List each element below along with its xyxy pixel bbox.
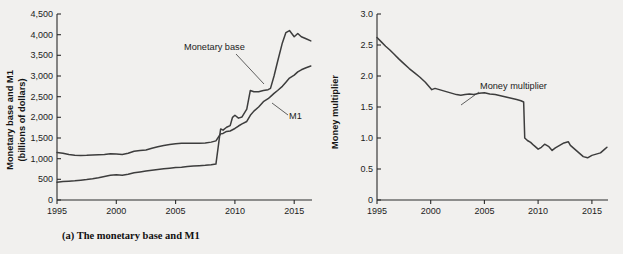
panel-a-caption: (a) The monetary base and M1: [62, 230, 200, 241]
panel-a-y-axis-label-line1: Monetary base and M1: [5, 70, 15, 170]
xb-tick-2005: 2005: [474, 206, 494, 216]
panel-a-y-axis-label-line2: (billions of dollars): [17, 78, 27, 161]
y-tick-2500: 2,500: [30, 92, 53, 102]
y-tick-3500: 3,500: [30, 50, 53, 60]
panel-b-y-tick-labels: 0 0.5 1.0 1.5 2.0 2.5 3.0: [360, 9, 373, 205]
y-tick-4500: 4,500: [30, 9, 53, 19]
y-tick-2000: 2,000: [30, 112, 53, 122]
xb-tick-2015: 2015: [582, 206, 602, 216]
x-tick-2000: 2000: [106, 206, 126, 216]
xb-tick-2010: 2010: [528, 206, 548, 216]
y-tick-3000: 3,000: [30, 71, 53, 81]
y-tick-1000: 1,000: [30, 154, 53, 164]
yb-tick-30: 3.0: [360, 9, 373, 19]
series-line-monetary-base: [57, 31, 311, 183]
y-tick-0: 0: [48, 195, 53, 205]
x-tick-2015: 2015: [284, 206, 304, 216]
leader-line-monetary-base: [236, 54, 264, 84]
panel-money-multiplier: Money multiplier 0 0.5 1.0 1.5 2.0 2.5: [320, 0, 623, 254]
xb-tick-1995: 1995: [367, 206, 387, 216]
annotation-monetary-base: Monetary base: [184, 42, 245, 52]
yb-tick-25: 2.5: [360, 40, 373, 50]
yb-tick-15: 1.5: [360, 102, 373, 112]
yb-tick-20: 2.0: [360, 71, 373, 81]
yb-tick-05: 0.5: [360, 164, 373, 174]
annotation-money-multiplier: Money multiplier: [480, 81, 547, 91]
panel-a-y-ticks: [57, 14, 61, 200]
x-tick-2005: 2005: [166, 206, 186, 216]
chart-a-svg: Monetary base and M1 (billions of dollar…: [0, 0, 320, 222]
panel-b-x-ticks: [377, 200, 592, 204]
panel-b-x-tick-labels: 1995 2000 2005 2010 2015: [367, 206, 602, 216]
x-tick-1995: 1995: [47, 206, 67, 216]
panel-a-x-ticks: [57, 200, 294, 204]
panel-a-y-tick-labels: 0 500 1,000 1,500 2,000 2,500 3,000 3,50…: [30, 9, 53, 205]
y-tick-1500: 1,500: [30, 133, 53, 143]
panel-b-y-axis-label: Money multiplier: [330, 75, 340, 149]
panel-monetary-base-m1: Monetary base and M1 (billions of dollar…: [0, 0, 320, 254]
yb-tick-10: 1.0: [360, 133, 373, 143]
panel-a-x-tick-labels: 1995 2000 2005 2010 2015: [47, 206, 304, 216]
chart-b-svg: Money multiplier 0 0.5 1.0 1.5 2.0 2.5: [320, 0, 623, 222]
xb-tick-2000: 2000: [421, 206, 441, 216]
y-tick-4000: 4,000: [30, 30, 53, 40]
series-line-money-multiplier: [377, 38, 607, 158]
y-tick-500: 500: [38, 174, 53, 184]
figure-container: Monetary base and M1 (billions of dollar…: [0, 0, 623, 254]
x-tick-2010: 2010: [225, 206, 245, 216]
leader-line-m1: [272, 103, 288, 115]
annotation-m1: M1: [289, 111, 302, 121]
yb-tick-0: 0: [368, 195, 373, 205]
